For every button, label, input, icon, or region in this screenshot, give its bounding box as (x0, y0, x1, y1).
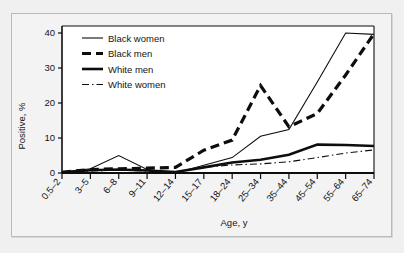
x-tick-label: 9–11 (126, 176, 148, 199)
x-tick-label: 35–44 (264, 176, 289, 203)
x-tick-label: 25–34 (236, 176, 261, 203)
y-tick-label: 20 (44, 97, 55, 108)
y-axis-title: Positive, % (16, 102, 27, 150)
x-tick-label: 3–5 (72, 176, 91, 195)
x-axis-title: Age, y (221, 217, 248, 228)
y-tick-label: 30 (44, 62, 55, 73)
x-tick-label: 65–74 (349, 176, 374, 203)
x-tick-label: 12–14 (151, 176, 176, 203)
legend-label-white-men: White men (108, 64, 153, 75)
x-tick-label: 55–64 (321, 176, 346, 203)
x-tick-label: 45–54 (292, 176, 317, 203)
y-tick-label: 40 (44, 27, 55, 38)
legend-label-black-women: Black women (108, 33, 165, 44)
legend-label-black-men: Black men (108, 48, 152, 59)
figure-root: 010203040 0.5–23–56–89–1112–1415–1718–24… (0, 0, 404, 253)
x-tick-label: 18–24 (207, 176, 232, 203)
line-chart: 010203040 0.5–23–56–89–1112–1415–1718–24… (12, 14, 391, 236)
x-tick-label: 15–17 (179, 176, 204, 203)
x-tick-label: 6–8 (101, 176, 120, 195)
y-tick-label: 10 (44, 132, 55, 143)
y-axis: 010203040 (44, 26, 62, 178)
x-tick-label: 0.5–2 (39, 176, 63, 201)
legend-label-white-women: White women (108, 79, 166, 90)
figure-frame: 010203040 0.5–23–56–89–1112–1415–1718–24… (11, 13, 392, 237)
